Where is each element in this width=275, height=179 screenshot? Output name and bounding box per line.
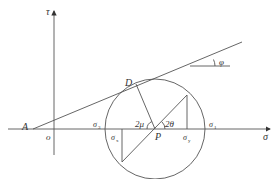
svg-text:x: x — [116, 138, 119, 143]
svg-text:y: y — [188, 138, 191, 143]
theta-angle-label: 2θ — [165, 119, 175, 129]
mohr-circle-diagram: τ σ o A D P φ 2μ 2θ σ 3 σ 1 σ x σ y — [0, 0, 275, 179]
point-P-label: P — [154, 131, 161, 142]
sigma-axis-label: σ — [263, 131, 269, 142]
stress-diameter — [122, 95, 187, 162]
origin-label: o — [46, 132, 51, 142]
sigma-y-label: σ y — [183, 133, 191, 143]
strength-envelope-line — [33, 42, 242, 129]
point-A-label: A — [21, 121, 29, 132]
phi-angle-arc — [214, 60, 216, 67]
sigma-x-label: σ x — [111, 133, 119, 143]
phi-label: φ — [219, 57, 224, 67]
sigma3-label: σ 3 — [93, 120, 101, 130]
tau-axis-label: τ — [46, 6, 50, 17]
point-D-label: D — [124, 77, 133, 88]
mu-angle-arc — [147, 122, 152, 129]
mu-angle-label: 2μ — [135, 119, 145, 129]
sigma1-label: σ 1 — [209, 120, 217, 130]
